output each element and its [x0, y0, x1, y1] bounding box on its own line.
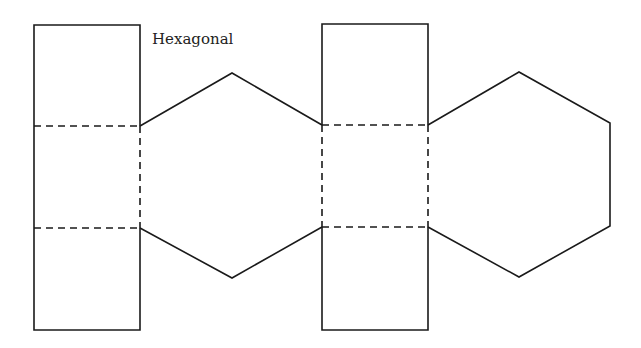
diagram-title: Hexagonal	[152, 30, 234, 48]
left-rectangle-strip	[34, 25, 140, 330]
right-rectangle-strip	[322, 24, 428, 330]
right-bottom-rectangle	[322, 227, 428, 330]
right-hexagon	[428, 72, 610, 277]
right-top-rectangle	[322, 24, 428, 125]
left-hexagon-top-edges	[140, 73, 322, 126]
left-hexagon-bottom-edges	[140, 227, 322, 278]
left-top-rectangle	[34, 25, 140, 126]
hexagonal-net-diagram: Hexagonal	[0, 0, 641, 348]
left-hexagon-piece	[140, 73, 322, 278]
